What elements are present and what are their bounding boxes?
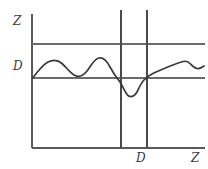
y-axis-name-label: Z bbox=[13, 15, 21, 27]
x-axis-name-label: Z bbox=[191, 152, 199, 164]
chart-figure: Z D D Z bbox=[0, 0, 208, 169]
y-threshold-label: D bbox=[13, 60, 23, 72]
signal-curve bbox=[33, 58, 205, 97]
plot-canvas bbox=[0, 0, 208, 169]
x-threshold-label: D bbox=[136, 152, 146, 164]
